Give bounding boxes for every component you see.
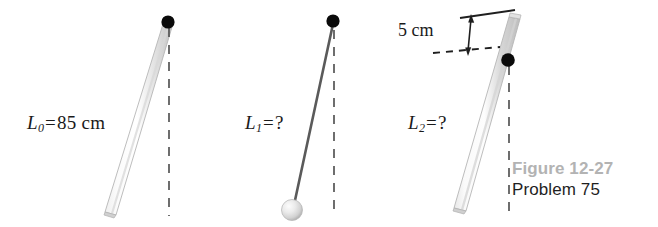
label-symbol-1: L — [245, 112, 256, 133]
label-operator-1: = — [262, 112, 275, 133]
label-operator-2: = — [425, 112, 438, 133]
label-value-0: 85 — [57, 112, 77, 133]
panel-rod-known-length — [104, 15, 175, 218]
pendulum-bob-1 — [282, 200, 303, 221]
label-symbol-2: L — [408, 112, 419, 133]
figure-caption-title: Figure 12-27 — [512, 158, 652, 179]
label-symbol-0: L — [27, 112, 38, 133]
dimension-arrow-line — [468, 19, 471, 51]
dimension-value: 5 — [398, 20, 407, 40]
label-value-2: ? — [438, 112, 447, 133]
figure-caption: Figure 12-27 Problem 75 — [512, 158, 652, 200]
label-value-1: ? — [275, 112, 284, 133]
figure-caption-subtitle: Problem 75 — [512, 179, 652, 200]
pendulum-length-label-1: L1=? — [245, 112, 284, 136]
label-subscript-1: 1 — [256, 121, 262, 135]
pivot-point-1 — [326, 14, 339, 27]
rod-body-0 — [105, 24, 172, 215]
pivot-offset-dimension-label: 5 cm — [398, 20, 434, 41]
pendulum-string-1 — [294, 24, 333, 205]
dimension-extension-line-top — [460, 10, 515, 18]
dimension-unit: cm — [412, 20, 434, 40]
label-subscript-0: 0 — [38, 121, 44, 135]
rod-shading-edge-0 — [112, 26, 169, 214]
label-subscript-2: 2 — [419, 121, 425, 135]
rod-length-label-0: L0=85 cm — [27, 112, 105, 136]
rod-body-2 — [454, 17, 520, 211]
rod-length-label-2: L2=? — [408, 112, 447, 136]
panel-pendulum-unknown-length — [282, 14, 340, 220]
pivot-point-2 — [501, 53, 515, 67]
label-unit-0: cm — [82, 112, 106, 133]
figure-12-27: L0=85 cm L1=? L2=? 5 cm Figure 12-27 Pro… — [0, 0, 658, 227]
dimension-arrow-head-down — [465, 47, 471, 56]
pivot-point-0 — [161, 15, 174, 28]
label-operator-0: = — [44, 112, 57, 133]
